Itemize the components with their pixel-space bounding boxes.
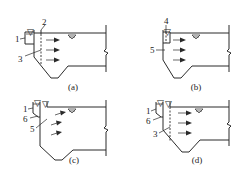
label-6: 6 — [146, 116, 151, 126]
svg-text:▽: ▽ — [164, 27, 171, 37]
flow-arrows — [51, 111, 66, 136]
label-5: 5 — [150, 45, 155, 55]
tank-right-edge — [227, 25, 231, 72]
label-3: 3 — [18, 54, 23, 64]
caption-a: (a) — [68, 82, 78, 92]
tank-bottom — [163, 60, 229, 78]
water-level-icon — [195, 109, 203, 113]
caption-c: (c) — [69, 155, 79, 165]
water-level-icon — [68, 109, 76, 113]
sedimentation-tank-inlet-diagram: ▽ 1 2 3 (a) — [0, 0, 247, 176]
flow-arrows — [173, 38, 186, 63]
caption-b: (b) — [191, 82, 202, 92]
water-level-icon — [192, 35, 200, 39]
tank-bottom — [163, 130, 229, 152]
panel-a: ▽ 1 2 3 (a) — [15, 17, 108, 92]
svg-text:▽: ▽ — [27, 27, 34, 37]
label-1: 1 — [146, 106, 151, 116]
tank-right-edge — [104, 25, 108, 72]
label-1: 1 — [15, 34, 20, 44]
caption-d: (d) — [192, 155, 203, 165]
flow-arrows — [46, 38, 60, 63]
label-1: 1 — [23, 104, 28, 114]
label-6: 6 — [23, 114, 28, 124]
panel-b: ▽ 4 5 (b) — [150, 16, 231, 92]
label-5: 5 — [30, 124, 35, 134]
label-3: 3 — [153, 129, 158, 139]
flow-arrows — [178, 111, 192, 136]
water-level-icon — [68, 35, 76, 39]
panel-d: ▽ ▽ 1 6 3 (d) — [146, 98, 231, 165]
label-4: 4 — [164, 16, 169, 26]
tank-bottom — [34, 57, 106, 78]
panel-c: ▽ ▽ 1 6 5 (c) — [23, 98, 108, 165]
label-2: 2 — [42, 17, 47, 27]
tank-right-edge — [104, 100, 108, 156]
